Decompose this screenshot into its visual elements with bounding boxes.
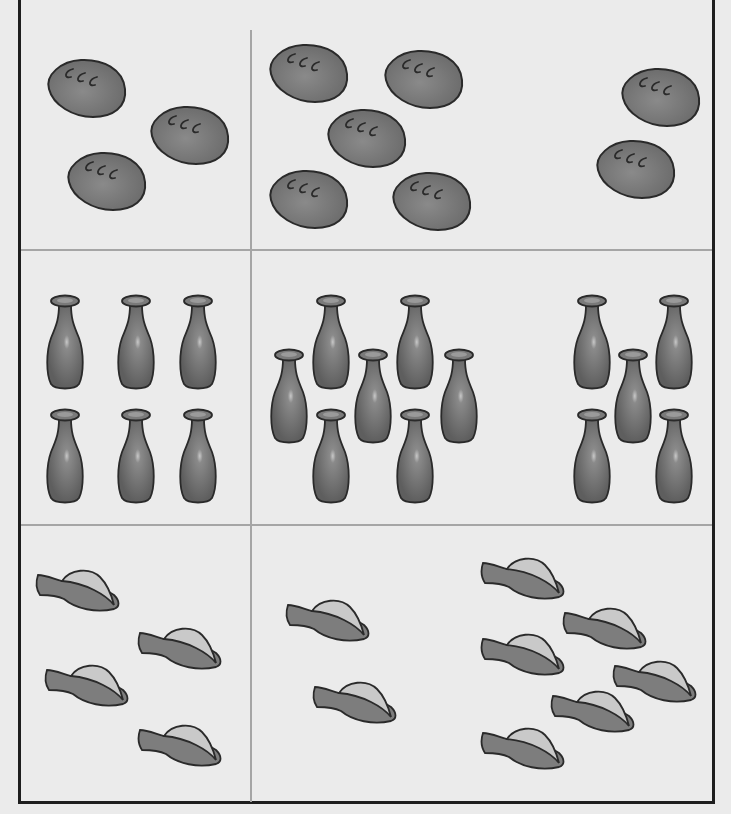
- bottle-item: [116, 408, 156, 504]
- bottle-item: [178, 294, 218, 390]
- bottle-icon: [45, 294, 85, 390]
- bottle-item: [353, 348, 393, 444]
- frame-right-border: [712, 0, 715, 804]
- fish-icon: [45, 662, 131, 708]
- fish-icon: [286, 597, 372, 643]
- bread-item: [43, 57, 127, 119]
- fish-icon: [481, 555, 567, 601]
- bread-loaf-icon: [592, 138, 676, 200]
- bottle-icon: [613, 348, 653, 444]
- bottle-icon: [654, 294, 694, 390]
- bottle-icon: [116, 408, 156, 504]
- bottle-item: [654, 294, 694, 390]
- fish-icon: [481, 725, 567, 771]
- bread-item: [265, 42, 349, 104]
- fish-icon: [481, 631, 567, 677]
- fish-icon: [138, 722, 224, 768]
- bread-item: [617, 66, 701, 128]
- bottle-icon: [311, 408, 351, 504]
- fish-item: [481, 555, 567, 601]
- bottle-icon: [654, 408, 694, 504]
- bottle-icon: [395, 408, 435, 504]
- bread-item: [265, 168, 349, 230]
- bread-loaf-icon: [380, 48, 464, 110]
- bread-item: [323, 107, 407, 169]
- row-divider-2: [21, 524, 712, 526]
- bottle-item: [178, 408, 218, 504]
- fish-item: [286, 597, 372, 643]
- bottle-icon: [45, 408, 85, 504]
- bread-loaf-icon: [617, 66, 701, 128]
- bottle-item: [572, 294, 612, 390]
- bread-item: [592, 138, 676, 200]
- bottle-icon: [178, 408, 218, 504]
- fish-icon: [138, 625, 224, 671]
- bottle-icon: [311, 294, 351, 390]
- frame-bottom-border: [18, 801, 715, 804]
- bottle-item: [439, 348, 479, 444]
- bottle-item: [395, 294, 435, 390]
- bottle-item: [116, 294, 156, 390]
- fish-item: [481, 725, 567, 771]
- fish-icon: [36, 567, 122, 613]
- bottle-item: [45, 294, 85, 390]
- bottle-icon: [395, 294, 435, 390]
- bread-loaf-icon: [146, 104, 230, 166]
- fish-item: [36, 567, 122, 613]
- bottle-item: [654, 408, 694, 504]
- bread-item: [388, 170, 472, 232]
- bottle-icon: [178, 294, 218, 390]
- bottle-icon: [353, 348, 393, 444]
- bottle-icon: [572, 408, 612, 504]
- row-divider-1: [21, 249, 712, 251]
- fish-icon: [563, 605, 649, 651]
- frame-left-border: [18, 0, 21, 804]
- fish-item: [313, 679, 399, 725]
- bottle-icon: [439, 348, 479, 444]
- bread-loaf-icon: [265, 168, 349, 230]
- bottle-item: [311, 294, 351, 390]
- bottle-item: [572, 408, 612, 504]
- fish-icon: [313, 679, 399, 725]
- bread-item: [146, 104, 230, 166]
- bottle-item: [311, 408, 351, 504]
- bottle-item: [613, 348, 653, 444]
- fish-item: [563, 605, 649, 651]
- fish-item: [138, 722, 224, 768]
- bread-loaf-icon: [388, 170, 472, 232]
- bottle-item: [395, 408, 435, 504]
- fish-item: [138, 625, 224, 671]
- bread-loaf-icon: [265, 42, 349, 104]
- fish-item: [481, 631, 567, 677]
- bread-loaf-icon: [63, 150, 147, 212]
- bread-item: [63, 150, 147, 212]
- bottle-item: [45, 408, 85, 504]
- bread-item: [380, 48, 464, 110]
- bottle-icon: [116, 294, 156, 390]
- bread-loaf-icon: [43, 57, 127, 119]
- bottle-item: [269, 348, 309, 444]
- bottle-icon: [572, 294, 612, 390]
- bread-loaf-icon: [323, 107, 407, 169]
- fish-item: [45, 662, 131, 708]
- column-divider: [250, 30, 252, 802]
- bottle-icon: [269, 348, 309, 444]
